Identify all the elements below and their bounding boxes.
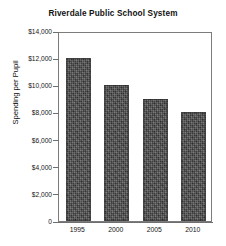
y-axis-tick-label: $6,000 — [6, 137, 52, 144]
y-axis-tick — [53, 194, 59, 195]
y-axis-tick-label: $4,000 — [6, 164, 52, 171]
y-axis-tick-label: $8,000 — [6, 109, 52, 116]
bar — [143, 99, 168, 221]
bars-layer — [59, 33, 211, 221]
y-axis-tick-label: $12,000 — [6, 55, 52, 62]
y-axis-tick-label: 0 — [6, 218, 52, 225]
bar — [66, 58, 91, 221]
y-axis-tick — [53, 86, 59, 87]
plot-area — [58, 32, 212, 222]
y-axis-tick — [53, 113, 59, 114]
y-axis-tick — [53, 59, 59, 60]
y-axis-tick-labels: 0$2,000$4,000$6,000$8,000$10,000$12,000$… — [0, 0, 52, 246]
x-axis-tick-label: 2000 — [96, 226, 136, 233]
y-axis-tick — [53, 32, 59, 33]
y-axis-tick-label: $2,000 — [6, 191, 52, 198]
y-axis-tick — [53, 222, 59, 223]
y-axis-tick — [53, 140, 59, 141]
x-axis-tick-label: 2010 — [173, 226, 213, 233]
bar — [181, 112, 206, 221]
x-axis-tick-label: 2005 — [134, 226, 174, 233]
y-axis-tick-label: $14,000 — [6, 28, 52, 35]
x-axis-spine — [58, 222, 213, 223]
y-axis-tick-label: $10,000 — [6, 82, 52, 89]
bar-chart-figure: Riverdale Public School System Spending … — [0, 0, 226, 246]
x-axis-tick-label: 1995 — [57, 226, 97, 233]
y-axis-tick — [53, 167, 59, 168]
bar — [104, 85, 129, 221]
